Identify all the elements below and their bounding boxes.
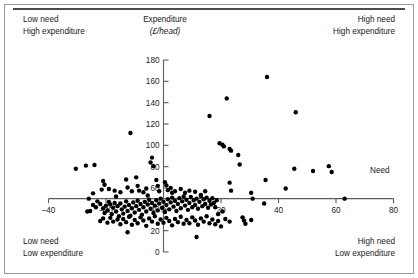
data-point [148,160,152,164]
data-point [84,163,88,167]
data-point [249,191,253,195]
data-point [329,170,333,174]
data-point [179,206,183,210]
data-point [174,209,178,213]
scatter-plot: –40–20020406080020406080100120140160180 [0,0,418,278]
x-axis-tick-label: 40 [274,206,284,215]
data-point [222,144,226,148]
y-axis-tick-label: 120 [146,120,160,129]
y-axis-tick-label: 180 [146,56,160,65]
data-point [203,202,207,206]
data-point [214,198,218,202]
x-axis-tick-label: 60 [331,206,341,215]
x-axis-tick-label: 80 [389,206,399,215]
data-point [311,169,315,173]
data-point [122,204,126,208]
data-point [74,167,78,171]
data-point [167,219,171,223]
data-point [157,201,161,205]
data-point [249,218,253,222]
data-point [115,217,119,221]
data-point [219,224,223,228]
data-point [229,188,233,192]
data-point [114,194,118,198]
data-point [145,202,149,206]
data-point [203,189,207,193]
data-point [125,230,129,234]
data-point [263,178,267,182]
data-point [111,219,115,223]
data-point [133,210,137,214]
data-point [161,220,165,224]
data-point [105,220,109,224]
data-point [88,209,92,213]
data-point [157,189,161,193]
data-point [213,205,217,209]
data-point [153,214,157,218]
y-axis-tick-label: 20 [150,227,160,236]
data-point [262,201,266,205]
data-point [167,207,171,211]
data-point [193,218,197,222]
data-point [105,208,109,212]
data-point [250,196,254,200]
y-axis-tick-label: 140 [146,99,160,108]
data-point [87,196,91,200]
data-point [176,220,180,224]
data-point [187,201,191,205]
data-point [193,190,197,194]
data-point [118,222,122,226]
data-point [131,200,135,204]
data-point [144,209,148,213]
data-point [227,180,231,184]
data-point [164,203,168,207]
data-point [114,209,118,213]
data-point [193,203,197,207]
data-point [108,216,112,220]
data-point [187,221,191,225]
data-point [130,206,134,210]
data-point [151,164,155,168]
data-point [98,202,102,206]
data-point [130,189,134,193]
data-point [180,199,184,203]
data-point [141,190,145,194]
data-point [197,200,201,204]
data-point [124,220,128,224]
data-point [183,203,187,207]
data-point [207,221,211,225]
data-point [128,131,132,135]
data-point [125,209,129,213]
data-point [125,185,129,189]
y-axis-tick-label: 0 [155,248,160,257]
data-point [104,203,108,207]
data-point [327,164,331,168]
data-point [181,222,185,226]
y-axis-tick-label: 100 [146,141,160,150]
data-point [171,204,175,208]
data-point [236,153,240,157]
data-point [130,223,134,227]
data-point [150,155,154,159]
data-point [168,200,172,204]
data-point [160,206,164,210]
data-point [216,212,220,216]
data-point [187,188,191,192]
data-point [223,217,227,221]
data-point [107,187,111,191]
data-point [163,210,167,214]
data-point [118,201,122,205]
data-point [179,215,183,219]
data-point [135,184,139,188]
data-point [153,203,157,207]
data-point [148,207,152,211]
data-point [196,207,200,211]
data-point [124,199,128,203]
data-point [292,167,296,171]
data-point [111,206,115,210]
data-point [227,219,231,223]
data-points-group [74,75,347,239]
data-point [92,163,96,167]
data-point [141,218,145,222]
data-point [225,96,229,100]
